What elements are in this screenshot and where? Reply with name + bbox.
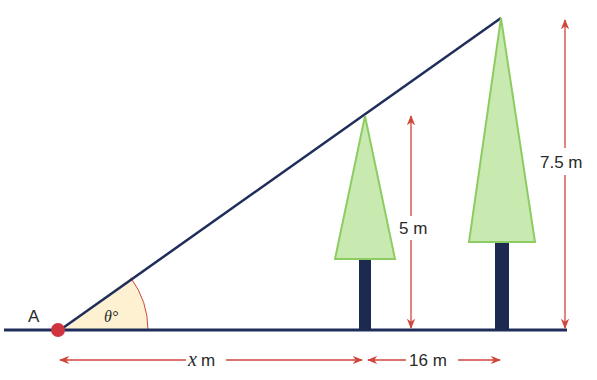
short-tree-height-label: 5 m xyxy=(399,219,427,238)
gap-distance-label: 16 m xyxy=(409,351,447,370)
trees-angle-diagram: A θ° 5 m 7.5 m x m 16 m xyxy=(0,0,597,380)
point-a-label: A xyxy=(28,307,40,326)
x-distance-var: x xyxy=(187,348,197,370)
point-a xyxy=(51,323,65,337)
tall-tree-crown xyxy=(469,18,535,242)
angle-label: θ° xyxy=(104,308,119,325)
tall-tree-trunk xyxy=(495,241,509,330)
short-tree-trunk xyxy=(359,258,371,330)
sight-line xyxy=(60,18,501,330)
short-tree-crown xyxy=(335,116,395,259)
tall-tree-height-label: 7.5 m xyxy=(540,153,583,172)
x-distance-unit: m xyxy=(201,351,215,370)
